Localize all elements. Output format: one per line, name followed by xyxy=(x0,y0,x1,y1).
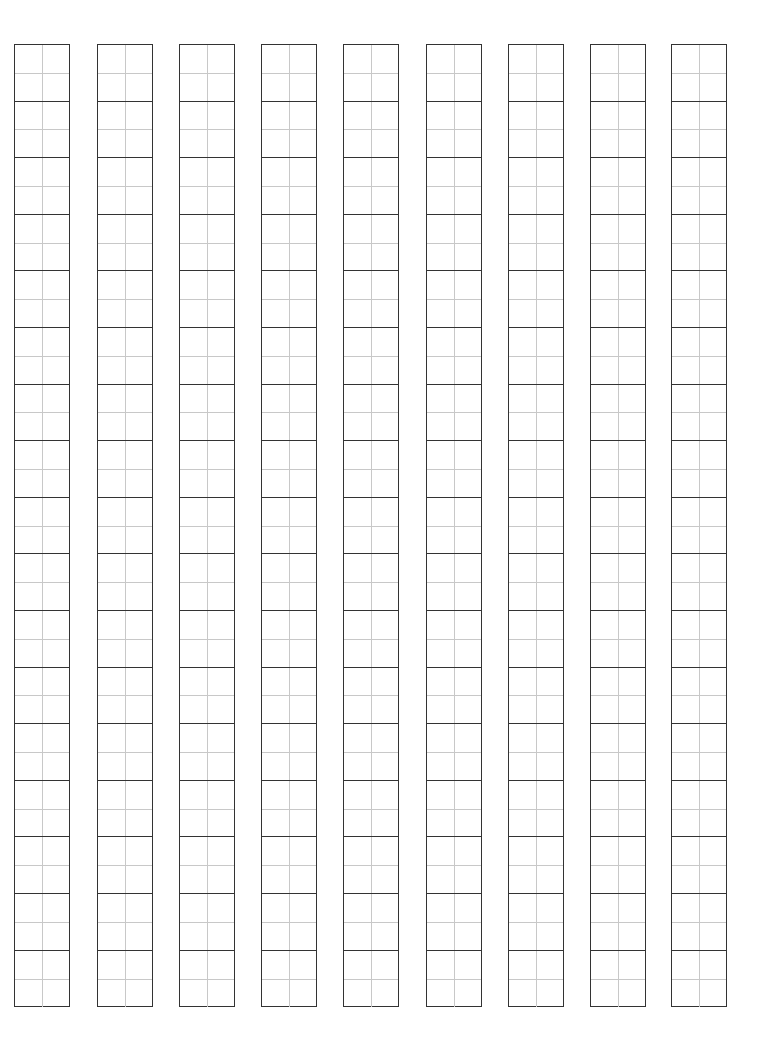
grid-cell xyxy=(672,45,726,102)
grid-column-3 xyxy=(179,44,235,1007)
grid-cell xyxy=(15,271,69,328)
grid-column-6 xyxy=(426,44,482,1007)
grid-cell xyxy=(509,271,563,328)
grid-cell xyxy=(591,554,645,611)
grid-cell xyxy=(98,45,152,102)
grid-cell xyxy=(98,837,152,894)
grid-cell xyxy=(15,781,69,838)
grid-cell xyxy=(98,441,152,498)
grid-cell xyxy=(672,441,726,498)
grid-cell xyxy=(427,45,481,102)
grid-cell xyxy=(98,158,152,215)
grid-cell xyxy=(427,271,481,328)
grid-cell xyxy=(262,498,316,555)
grid-cell xyxy=(509,441,563,498)
grid-cell xyxy=(344,385,398,442)
grid-cell xyxy=(509,894,563,951)
grid-cell xyxy=(427,498,481,555)
grid-cell xyxy=(509,554,563,611)
grid-cell xyxy=(672,951,726,1008)
grid-cell xyxy=(180,215,234,272)
grid-cell xyxy=(509,498,563,555)
grid-cell xyxy=(98,781,152,838)
grid-cell xyxy=(180,271,234,328)
grid-cell xyxy=(180,385,234,442)
grid-cell xyxy=(344,441,398,498)
grid-cell xyxy=(98,328,152,385)
grid-cell xyxy=(180,724,234,781)
grid-cell xyxy=(672,215,726,272)
grid-cell xyxy=(591,724,645,781)
grid-cell xyxy=(344,328,398,385)
grid-cell xyxy=(591,894,645,951)
grid-cell xyxy=(509,328,563,385)
grid-cell xyxy=(427,894,481,951)
grid-cell xyxy=(427,951,481,1008)
grid-cell xyxy=(344,837,398,894)
grid-cell xyxy=(509,951,563,1008)
grid-cell xyxy=(509,385,563,442)
grid-cell xyxy=(262,837,316,894)
grid-cell xyxy=(591,951,645,1008)
grid-cell xyxy=(262,102,316,159)
grid-cell xyxy=(15,554,69,611)
grid-cell xyxy=(344,45,398,102)
grid-cell xyxy=(15,894,69,951)
grid-cell xyxy=(262,724,316,781)
grid-cell xyxy=(180,951,234,1008)
grid-column-4 xyxy=(261,44,317,1007)
grid-cell xyxy=(262,385,316,442)
grid-cell xyxy=(344,951,398,1008)
grid-cell xyxy=(262,45,316,102)
grid-cell xyxy=(98,498,152,555)
grid-cell xyxy=(344,498,398,555)
grid-cell xyxy=(98,385,152,442)
grid-cell xyxy=(15,385,69,442)
grid-cell xyxy=(262,158,316,215)
grid-cell xyxy=(591,271,645,328)
grid-cell xyxy=(262,554,316,611)
grid-cell xyxy=(427,102,481,159)
grid-cell xyxy=(672,102,726,159)
grid-cell xyxy=(98,668,152,725)
grid-cell xyxy=(509,837,563,894)
grid-cell xyxy=(98,554,152,611)
grid-column-7 xyxy=(508,44,564,1007)
grid-column-8 xyxy=(590,44,646,1007)
grid-cell xyxy=(591,328,645,385)
grid-cell xyxy=(672,498,726,555)
grid-cell xyxy=(15,837,69,894)
grid-cell xyxy=(180,102,234,159)
grid-cell xyxy=(180,668,234,725)
grid-cell xyxy=(344,781,398,838)
grid-cell xyxy=(344,158,398,215)
grid-cell xyxy=(344,554,398,611)
grid-cell xyxy=(672,668,726,725)
grid-cell xyxy=(672,554,726,611)
grid-cell xyxy=(591,215,645,272)
grid-cell xyxy=(591,385,645,442)
grid-cell xyxy=(98,271,152,328)
grid-cell xyxy=(509,724,563,781)
grid-cell xyxy=(427,724,481,781)
grid-cell xyxy=(591,837,645,894)
grid-cell xyxy=(509,215,563,272)
grid-cell xyxy=(180,837,234,894)
grid-cell xyxy=(344,611,398,668)
grid-cell xyxy=(672,385,726,442)
grid-cell xyxy=(180,498,234,555)
grid-cell xyxy=(672,611,726,668)
grid-cell xyxy=(427,328,481,385)
grid-cell xyxy=(509,45,563,102)
grid-cell xyxy=(15,215,69,272)
grid-cell xyxy=(344,102,398,159)
grid-cell xyxy=(672,894,726,951)
grid-cell xyxy=(509,158,563,215)
grid-cell xyxy=(98,724,152,781)
grid-cell xyxy=(672,781,726,838)
grid-column-2 xyxy=(97,44,153,1007)
grid-cell xyxy=(591,102,645,159)
grid-cell xyxy=(427,385,481,442)
grid-cell xyxy=(262,271,316,328)
grid-cell xyxy=(180,45,234,102)
